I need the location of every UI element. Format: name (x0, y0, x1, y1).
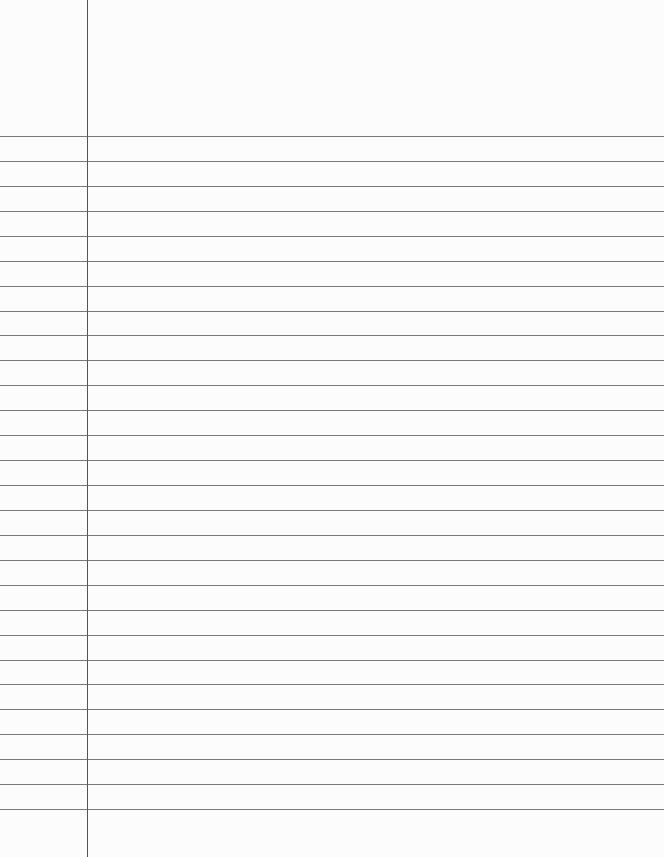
ruled-line (0, 485, 664, 486)
ruled-line (0, 535, 664, 536)
ruled-line (0, 435, 664, 436)
ruled-line (0, 311, 664, 312)
ruled-line (0, 360, 664, 361)
ruled-line (0, 684, 664, 685)
ruled-line (0, 759, 664, 760)
ruled-line (0, 784, 664, 785)
ruled-line (0, 410, 664, 411)
lined-paper-sheet (0, 0, 664, 857)
ruled-line (0, 510, 664, 511)
ruled-line (0, 585, 664, 586)
ruled-line (0, 236, 664, 237)
ruled-line (0, 286, 664, 287)
ruled-line (0, 660, 664, 661)
ruled-line (0, 560, 664, 561)
ruled-line (0, 809, 664, 810)
ruled-line (0, 635, 664, 636)
ruled-line (0, 385, 664, 386)
ruled-line (0, 610, 664, 611)
ruled-line (0, 709, 664, 710)
ruled-line (0, 161, 664, 162)
margin-line (87, 0, 88, 857)
ruled-line (0, 460, 664, 461)
ruled-line (0, 136, 664, 137)
ruled-line (0, 335, 664, 336)
ruled-line (0, 261, 664, 262)
ruled-line (0, 186, 664, 187)
ruled-line (0, 734, 664, 735)
ruled-line (0, 211, 664, 212)
